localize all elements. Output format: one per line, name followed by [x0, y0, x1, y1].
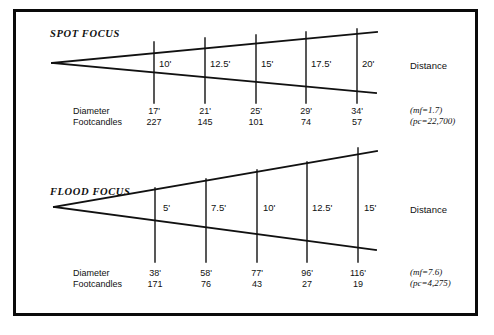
spot-diameter-row-label: Diameter — [73, 106, 110, 116]
spot-footcandles-row-label: Footcandles — [73, 117, 122, 127]
flood-distance-value-3: 10' — [263, 202, 275, 213]
flood-multiplying-factor-note: (mf=7.6) — [410, 267, 442, 277]
spot-diameter-value-4: 29' — [286, 106, 326, 116]
spot-diameter-value-2: 21' — [185, 106, 225, 116]
spot-distance-value-1: 10' — [159, 58, 171, 69]
flood-diameter-value-5: 116' — [338, 268, 378, 278]
spot-footcandles-value-4: 74 — [286, 117, 326, 127]
spot-multiplying-factor-note: (mf=1.7) — [410, 105, 442, 115]
spot-diameter-value-3: 25' — [236, 106, 276, 116]
flood-peak-candela-note: (pc=4,275) — [410, 278, 451, 288]
spot-distance-axis-label: Distance — [410, 60, 447, 71]
flood-footcandles-row-label: Footcandles — [73, 279, 122, 289]
spot-peak-candela-note: (pc=22,700) — [410, 116, 455, 126]
flood-distance-axis-label: Distance — [410, 204, 447, 215]
spot-footcandles-value-2: 145 — [185, 117, 225, 127]
flood-footcandles-value-4: 27 — [287, 279, 327, 289]
spot-focus-title: SPOT FOCUS — [50, 28, 120, 39]
flood-distance-value-4: 12.5' — [312, 202, 332, 213]
flood-cone-lower-edge — [54, 207, 376, 250]
flood-diameter-value-4: 96' — [287, 268, 327, 278]
flood-footcandles-value-3: 43 — [237, 279, 277, 289]
spot-footcandles-value-5: 57 — [337, 117, 377, 127]
flood-diameter-value-1: 38' — [135, 268, 175, 278]
flood-diameter-value-3: 77' — [237, 268, 277, 278]
flood-footcandles-value-5: 19 — [338, 279, 378, 289]
flood-distance-value-2: 7.5' — [211, 202, 226, 213]
flood-distance-value-1: 5' — [163, 202, 170, 213]
spot-distance-value-4: 17.5' — [311, 58, 331, 69]
flood-cone-upper-edge — [54, 151, 377, 207]
spot-distance-value-3: 15' — [261, 58, 273, 69]
flood-focus-title: FLOOD FOCUS — [50, 186, 130, 197]
spot-diameter-value-5: 34' — [337, 106, 377, 116]
spot-distance-value-2: 12.5' — [210, 58, 230, 69]
figure-page: SPOT FOCUS 10' 12.5' 15' 17.5' 20' Dista… — [0, 0, 494, 335]
spot-diameter-value-1: 17' — [134, 106, 174, 116]
flood-footcandles-value-1: 171 — [135, 279, 175, 289]
flood-diameter-value-2: 58' — [186, 268, 226, 278]
flood-footcandles-value-2: 76 — [186, 279, 226, 289]
spot-distance-value-5: 20' — [362, 58, 374, 69]
spot-footcandles-value-1: 227 — [134, 117, 174, 127]
flood-diameter-row-label: Diameter — [73, 268, 110, 278]
spot-footcandles-value-3: 101 — [236, 117, 276, 127]
flood-distance-value-5: 15' — [364, 202, 376, 213]
